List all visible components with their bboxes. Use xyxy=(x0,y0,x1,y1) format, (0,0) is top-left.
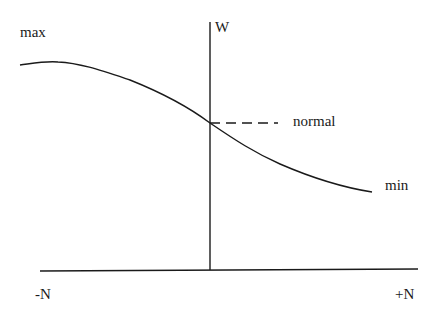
pos-n-label: +N xyxy=(395,287,414,302)
w-axis-label: W xyxy=(215,20,229,35)
normal-label: normal xyxy=(293,114,336,129)
n-axis xyxy=(40,269,418,271)
neg-n-label: -N xyxy=(35,287,51,302)
max-label: max xyxy=(20,25,46,40)
diagram-canvas xyxy=(0,0,444,322)
min-label: min xyxy=(385,178,408,193)
